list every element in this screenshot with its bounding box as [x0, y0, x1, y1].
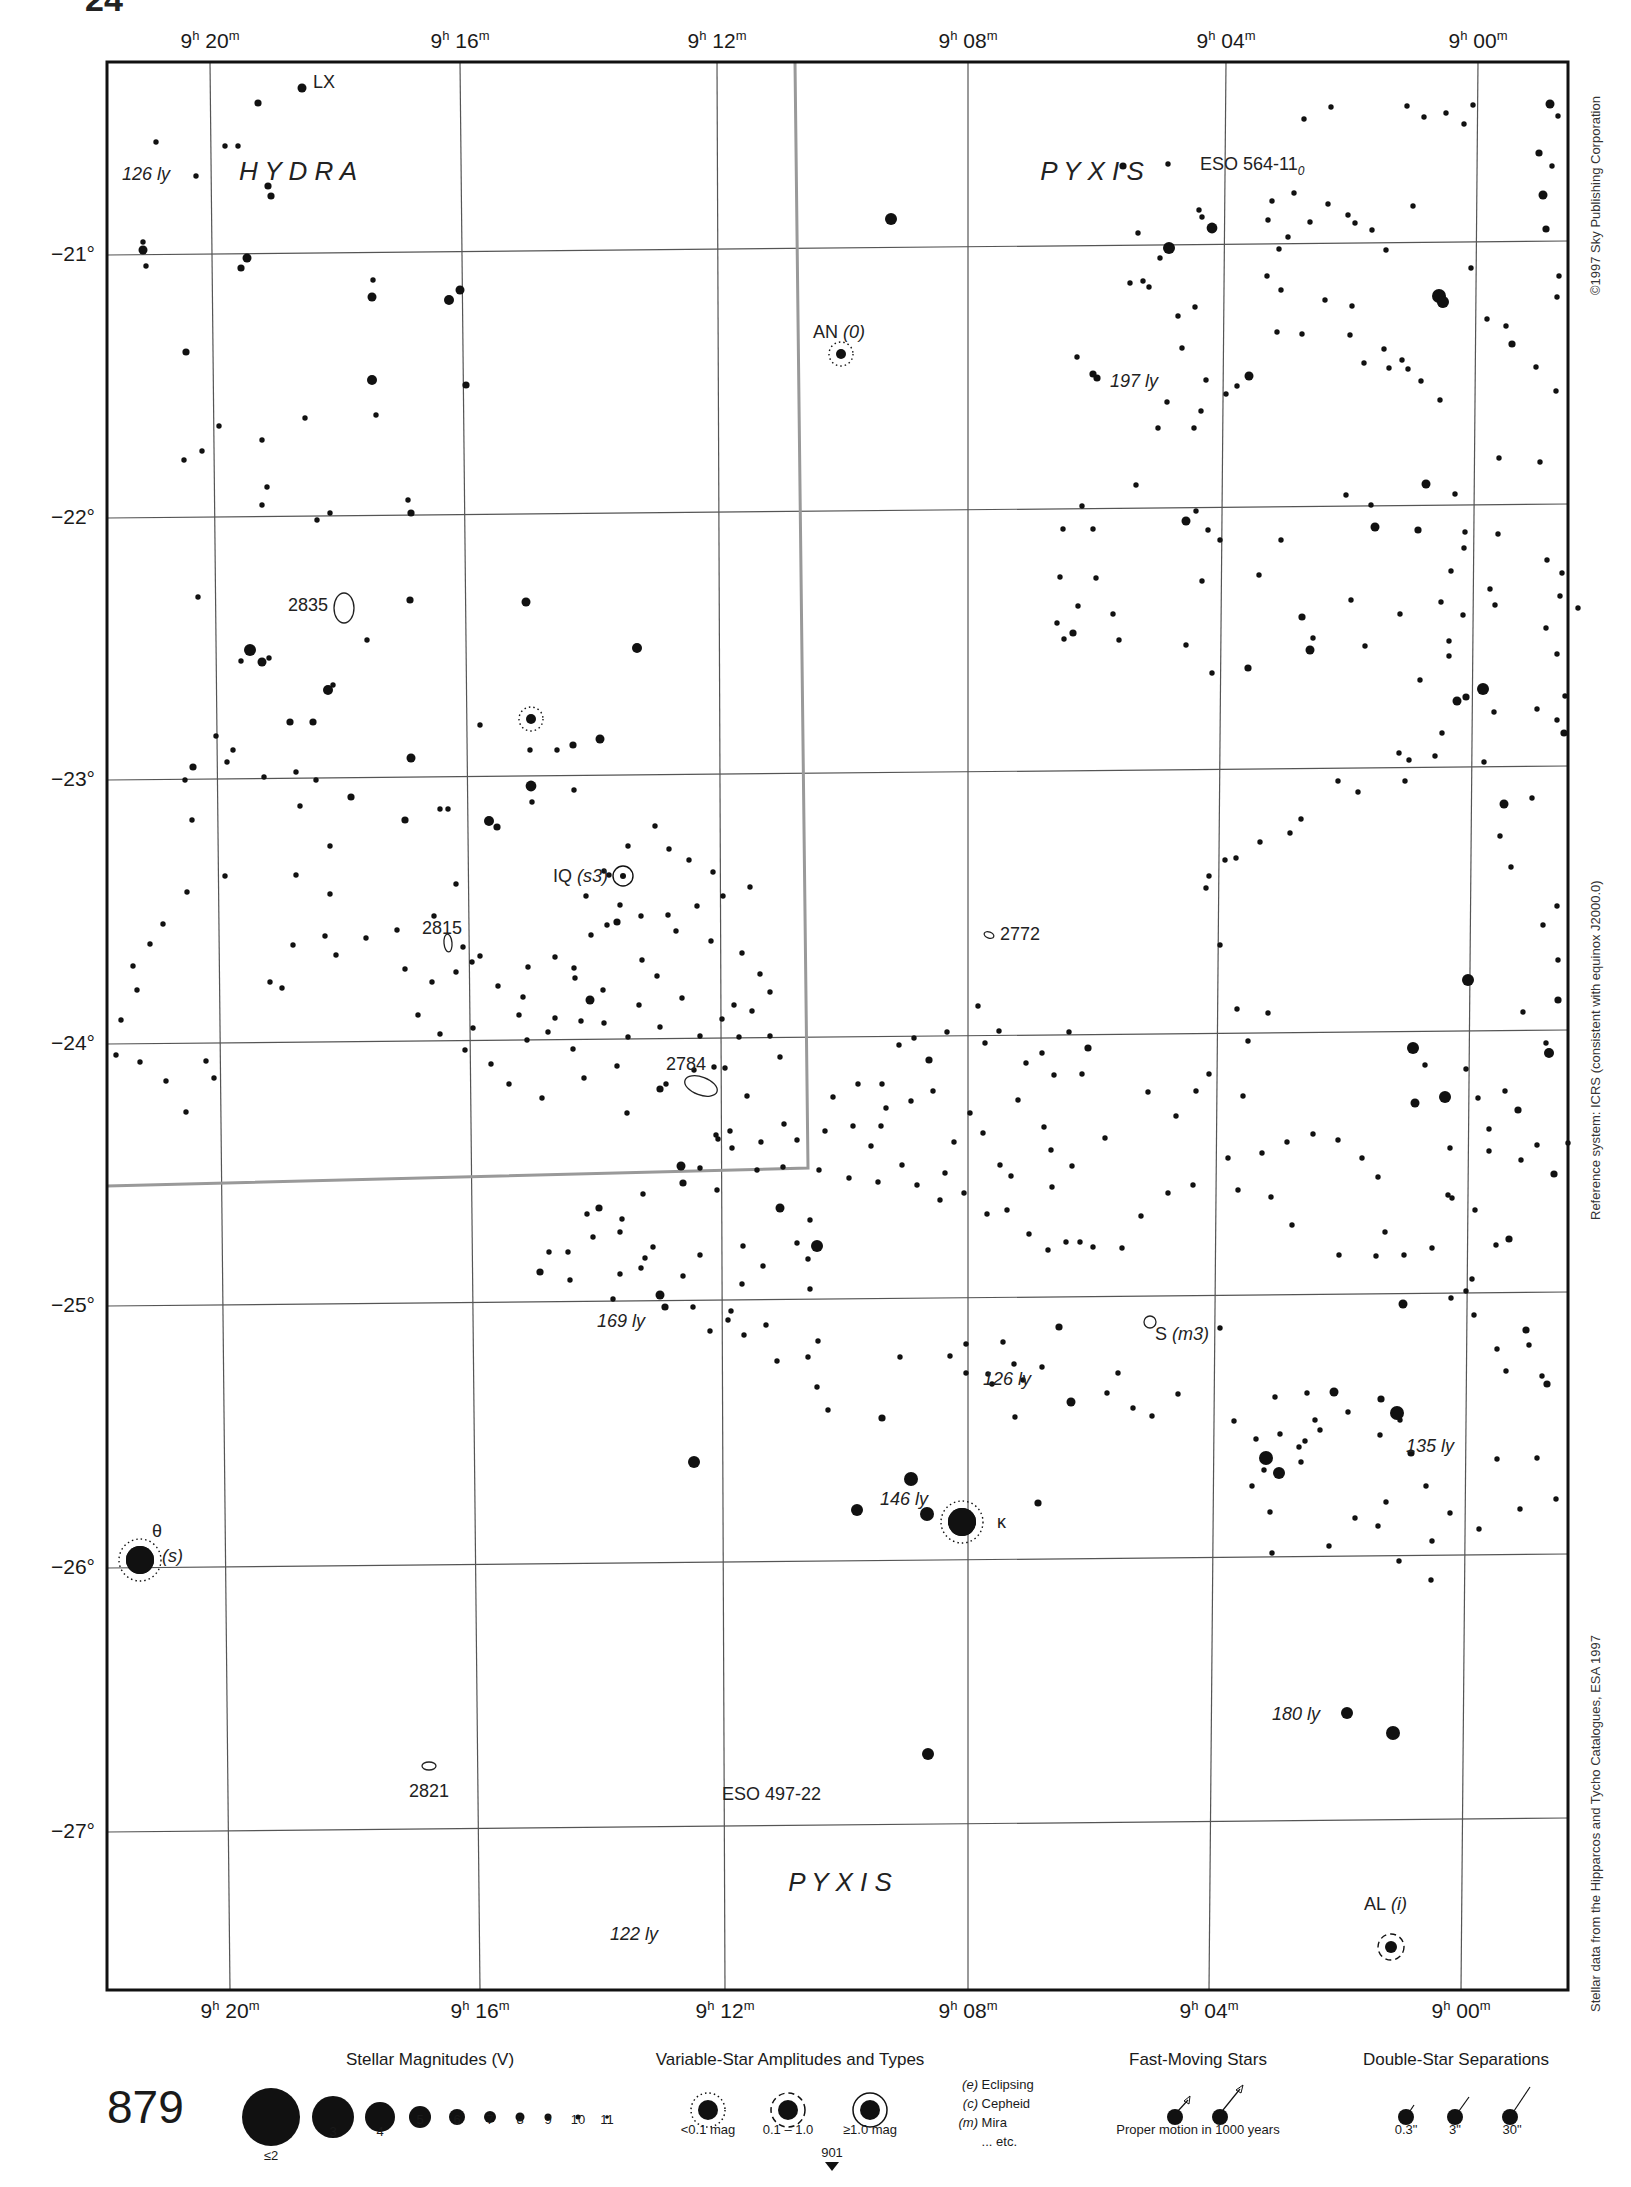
object-label: 2784	[666, 1054, 706, 1074]
legend-variables-title: Variable-Star Amplitudes and Types	[656, 2050, 925, 2070]
object-label: 122 ly	[610, 1924, 659, 1944]
legend-amp-mid: 0.1 – 1.0	[763, 2122, 814, 2137]
next-page-arrow-icon[interactable]	[825, 2162, 839, 2171]
magnitude-label: 10	[571, 2112, 585, 2127]
object-label: 2821	[409, 1781, 449, 1801]
dec-label: −22°	[5, 505, 95, 529]
ra-label: 9h 16m	[451, 1998, 510, 2023]
object-label: AN (0)	[813, 322, 865, 342]
constellation-label: P Y X I S	[788, 1867, 892, 1897]
variable-type-item: (e) Eclipsing	[950, 2077, 1034, 2092]
object-label: 126 ly	[983, 1369, 1032, 1389]
map-labels: H Y D R AP Y X I SP Y X I SLX126 lyESO 5…	[122, 72, 1455, 1944]
legend-fast-moving-title: Fast-Moving Stars	[1129, 2050, 1267, 2070]
dec-label: −23°	[5, 767, 95, 791]
dec-label: −25°	[5, 1293, 95, 1317]
ra-label: 9h 20m	[181, 28, 240, 53]
dec-label: −21°	[5, 242, 95, 266]
object-label: ESO 564-110	[1200, 154, 1305, 178]
ra-label: 9h 16m	[431, 28, 490, 53]
object-label: (s)	[162, 1546, 183, 1566]
magnitude-label: 5	[416, 2112, 423, 2127]
magnitude-label: 3	[329, 2124, 336, 2139]
variable-type-item: ... etc.	[950, 2134, 1017, 2149]
dec-label: −26°	[5, 1555, 95, 1579]
legend-sep-3: 3"	[1449, 2122, 1461, 2137]
magnitude-label: 8	[516, 2112, 523, 2127]
copyright-note: ©1997 Sky Publishing Corporation	[1588, 96, 1603, 295]
galaxies	[334, 593, 1156, 1770]
object-label: LX	[313, 72, 335, 92]
star-field	[113, 84, 1580, 1961]
ra-label: 9h 12m	[688, 28, 747, 53]
magnitude-label: 6	[453, 2112, 460, 2127]
magnitude-label: 9	[544, 2112, 551, 2127]
legend-sep-30: 30"	[1502, 2122, 1521, 2137]
next-page-pointer[interactable]: 901	[821, 2145, 843, 2160]
ra-label: 9h 00m	[1449, 28, 1508, 53]
object-label: 2772	[1000, 924, 1040, 944]
object-label: 180 ly	[1272, 1704, 1321, 1724]
object-label: θ	[152, 1521, 162, 1541]
object-label: 169 ly	[597, 1311, 646, 1331]
page-number: 879	[107, 2080, 184, 2134]
object-label: ESO 497-22	[722, 1784, 821, 1804]
ra-label: 9h 04m	[1180, 1998, 1239, 2023]
legend-fast-moving-caption: Proper motion in 1000 years	[1116, 2122, 1279, 2137]
object-label: IQ (s3)	[553, 866, 608, 886]
object-label: 197 ly	[1110, 371, 1159, 391]
object-label: 2815	[422, 918, 462, 938]
reference-system-note: Reference system: ICRS (consistent with …	[1588, 880, 1603, 1220]
variable-type-item: (c) Cepheid	[950, 2096, 1030, 2111]
object-label: 126 ly	[122, 164, 171, 184]
legend-magnitudes-title: Stellar Magnitudes (V)	[346, 2050, 514, 2070]
object-label: AL (i)	[1364, 1894, 1407, 1914]
magnitude-label: 11	[600, 2112, 614, 2127]
variable-type-item: (m) Mira	[950, 2115, 1007, 2130]
constellation-label: P Y X I S	[1040, 156, 1144, 186]
ra-label: 9h 08m	[939, 1998, 998, 2023]
legend-double-stars-title: Double-Star Separations	[1363, 2050, 1549, 2070]
constellation-label: H Y D R A	[239, 156, 357, 186]
magnitude-label: ≤2	[264, 2148, 278, 2163]
legend-amp-low: <0.1 mag	[681, 2122, 736, 2137]
magnitude-label: 7	[486, 2112, 493, 2127]
ra-label: 9h 20m	[201, 1998, 260, 2023]
object-label: S (m3)	[1155, 1324, 1209, 1344]
legend-sep-0-3: 0.3"	[1395, 2122, 1418, 2137]
ra-label: 9h 04m	[1197, 28, 1256, 53]
data-source-note: Stellar data from the Hipparcos and Tych…	[1588, 1635, 1603, 2012]
object-label: κ	[997, 1512, 1007, 1532]
object-label: 146 ly	[880, 1489, 929, 1509]
object-label: 2835	[288, 595, 328, 615]
ra-label: 9h 12m	[696, 1998, 755, 2023]
dec-label: −24°	[5, 1031, 95, 1055]
object-label: 135 ly	[1406, 1436, 1455, 1456]
ra-label: 9h 00m	[1432, 1998, 1491, 2023]
dec-label: −27°	[5, 1819, 95, 1843]
magnitude-label: 4	[376, 2124, 383, 2139]
ra-label: 9h 08m	[939, 28, 998, 53]
legend-amp-high: ≥1.0 mag	[843, 2122, 897, 2137]
star-chart: H Y D R AP Y X I SP Y X I SLX126 lyESO 5…	[0, 0, 1631, 2187]
